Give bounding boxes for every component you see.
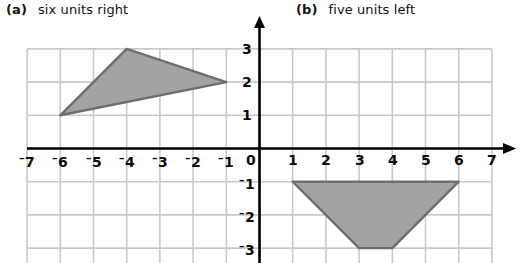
y-tick-3: 3 <box>242 42 252 56</box>
x-tick--4: –4 <box>119 153 135 169</box>
tick-digit: 2 <box>245 209 255 225</box>
tick-digit: 3 <box>242 41 252 57</box>
negative-sign-glyph: – <box>185 152 191 165</box>
tick-digit: 2 <box>321 152 331 168</box>
tick-digit: 3 <box>158 154 168 170</box>
tick-digit: 3 <box>245 242 255 258</box>
negative-sign-glyph: – <box>19 152 25 165</box>
x-tick-1: 1 <box>288 153 298 167</box>
tick-digit: 1 <box>245 176 255 192</box>
x-tick--2: –2 <box>185 153 201 169</box>
negative-sign-glyph: – <box>152 152 158 165</box>
x-tick--5: –5 <box>86 153 102 169</box>
tick-digit: 5 <box>92 154 102 170</box>
tick-digit: 7 <box>25 154 35 170</box>
negative-sign-glyph: – <box>119 152 125 165</box>
coordinate-plane-figure: (a)six units right (b)five units left –7… <box>0 0 524 263</box>
plot-canvas <box>0 0 524 263</box>
negative-sign-glyph: – <box>239 174 245 187</box>
x-tick-7: 7 <box>487 153 497 167</box>
y-tick-1: 1 <box>242 108 252 122</box>
x-tick-6: 6 <box>454 153 464 167</box>
x-tick-5: 5 <box>421 153 431 167</box>
negative-sign-glyph: – <box>239 240 245 253</box>
y-tick--2: –2 <box>239 208 255 224</box>
tick-digit: 6 <box>58 154 68 170</box>
tick-digit: 6 <box>454 152 464 168</box>
tick-digit: 4 <box>125 154 135 170</box>
y-tick--1: –1 <box>239 175 255 191</box>
tick-digit: 2 <box>242 74 252 90</box>
tick-digit: 3 <box>355 152 365 168</box>
negative-sign-glyph: – <box>218 152 224 165</box>
x-tick--6: –6 <box>52 153 68 169</box>
x-tick--1: –1 <box>218 153 234 169</box>
axes-layer <box>27 16 516 263</box>
tick-digit: 7 <box>487 152 497 168</box>
x-tick--3: –3 <box>152 153 168 169</box>
y-axis-arrow-icon <box>254 16 265 28</box>
y-tick--3: –3 <box>239 241 255 257</box>
tick-digit: 1 <box>242 107 252 123</box>
x-tick-3: 3 <box>355 153 365 167</box>
negative-sign-glyph: – <box>52 152 58 165</box>
x-tick--7: –7 <box>19 153 35 169</box>
tick-digit: 1 <box>288 152 298 168</box>
tick-digit: 4 <box>388 152 398 168</box>
x-tick-0: 0 <box>246 153 256 167</box>
tick-digit: 5 <box>421 152 431 168</box>
x-tick-2: 2 <box>321 153 331 167</box>
tick-digit: 2 <box>191 154 201 170</box>
negative-sign-glyph: – <box>86 152 92 165</box>
negative-sign-glyph: – <box>239 207 245 220</box>
x-tick-4: 4 <box>388 153 398 167</box>
tick-digit: 0 <box>246 152 256 168</box>
x-axis-arrow-icon <box>503 143 516 154</box>
y-tick-2: 2 <box>242 75 252 89</box>
tick-digit: 1 <box>224 154 234 170</box>
